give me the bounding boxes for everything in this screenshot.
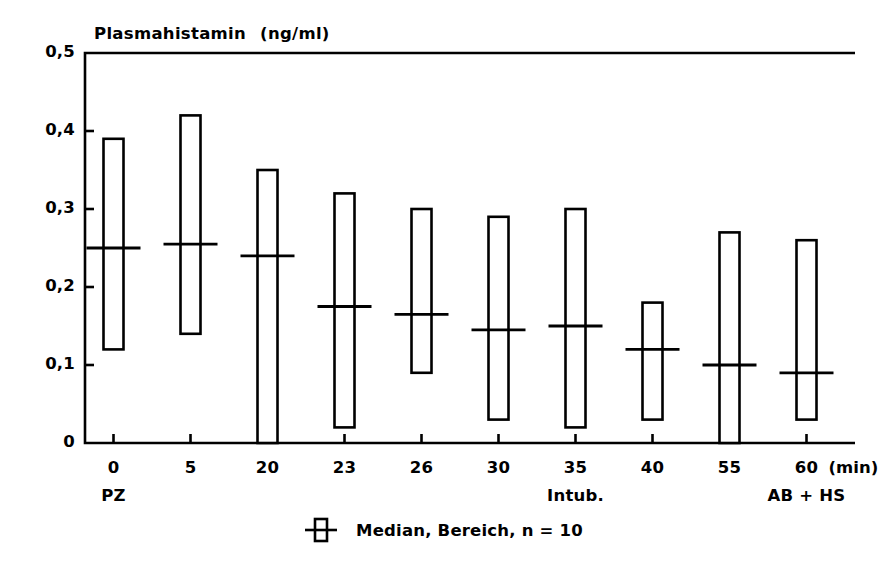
range-bar — [241, 170, 295, 443]
range-bar — [395, 209, 449, 373]
y-tick-label: 0,4 — [29, 120, 75, 139]
median-range-icon — [304, 515, 338, 545]
range-bar — [549, 209, 603, 427]
x-tick-label: 40 — [618, 458, 688, 477]
legend-label: Median, Bereich, n = 10 — [356, 521, 583, 540]
x-tick-label: 35 — [541, 458, 611, 477]
x-tick-label: 30 — [464, 458, 534, 477]
y-tick-label: 0 — [29, 432, 75, 451]
range-bar — [626, 303, 680, 420]
range-bar — [472, 217, 526, 420]
x-tick-sublabel: PZ — [59, 486, 169, 505]
x-tick-label: 0 — [79, 458, 149, 477]
x-tick-sublabel: Intub. — [521, 486, 631, 505]
y-tick-label: 0,3 — [29, 198, 75, 217]
x-axis-unit-label: (min) — [829, 458, 879, 477]
chart-figure: Plasmahistamin(ng/ml) 00,10,20,30,40,5 0… — [0, 0, 887, 565]
chart-legend: Median, Bereich, n = 10 — [0, 515, 887, 545]
y-tick-label: 0,5 — [29, 42, 75, 61]
x-tick-label: 20 — [233, 458, 303, 477]
x-tick-label: 5 — [156, 458, 226, 477]
bars-group — [87, 115, 834, 443]
x-tick-label: 26 — [387, 458, 457, 477]
y-tick-label: 0,2 — [29, 276, 75, 295]
x-tick-label: 55 — [695, 458, 765, 477]
x-tick-sublabel: AB + HS — [752, 486, 862, 505]
range-bar — [703, 232, 757, 443]
range-bar — [318, 193, 372, 427]
range-bar — [87, 139, 141, 350]
y-tick-label: 0,1 — [29, 354, 75, 373]
range-bar — [780, 240, 834, 419]
range-bar — [164, 115, 218, 333]
plot-area — [0, 0, 887, 565]
x-tick-label: 23 — [310, 458, 380, 477]
